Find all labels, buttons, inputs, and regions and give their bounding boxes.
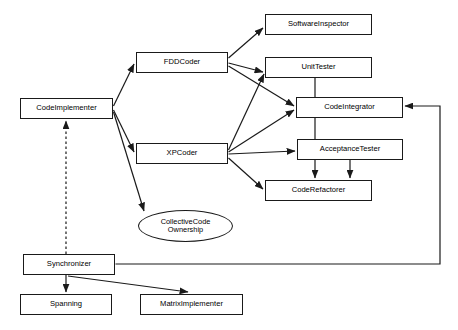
node-xp-coder[interactable]: XPCoder <box>136 143 228 164</box>
node-acceptance-tester-label: AcceptanceTester <box>320 145 380 154</box>
edge-xpcoder-coderefactorer <box>229 158 264 189</box>
node-code-implementer-label: CodeImplementer <box>36 104 96 113</box>
node-matrix-implementer-label: MatrixImplementer <box>160 300 223 309</box>
diagram-edges-layer <box>0 0 458 330</box>
node-matrix-implementer[interactable]: MatrixImplementer <box>140 294 243 315</box>
node-code-integrator[interactable]: CodeIntegrator <box>296 97 403 118</box>
node-spanning-label: Spanning <box>50 300 82 309</box>
node-spanning[interactable]: Spanning <box>20 294 112 315</box>
node-acceptance-tester[interactable]: AcceptanceTester <box>297 139 403 160</box>
diagram-canvas: CodeImplementer FDDCoder XPCoder Softwar… <box>0 0 458 330</box>
node-collective-code-ownership[interactable]: CollectiveCode Ownership <box>138 210 233 242</box>
node-software-inspector[interactable]: SoftwareInspector <box>265 14 372 35</box>
node-synchronizer-label: Synchronizer <box>47 260 91 269</box>
edge-synchronizer-matriximplementer <box>68 276 188 292</box>
node-code-refactorer-label: CodeRefactorer <box>292 186 346 195</box>
edge-xpcoder-unittester <box>229 74 265 150</box>
edge-xpcoder-acceptancetester <box>229 151 296 154</box>
node-unit-tester[interactable]: UnitTester <box>265 57 372 78</box>
node-xp-coder-label: XPCoder <box>167 149 198 158</box>
node-synchronizer[interactable]: Synchronizer <box>23 254 115 275</box>
edge-fddcoder-unittester <box>229 63 264 72</box>
node-unit-tester-label: UnitTester <box>301 63 335 72</box>
edge-xpcoder-codeintegrator <box>229 110 295 152</box>
node-code-implementer[interactable]: CodeImplementer <box>20 98 113 119</box>
node-code-refactorer[interactable]: CodeRefactorer <box>265 180 372 201</box>
edge-codeimplementer-fddcoder <box>114 64 135 106</box>
node-fdd-coder-label: FDDCoder <box>164 58 200 67</box>
node-fdd-coder[interactable]: FDDCoder <box>136 52 228 73</box>
node-collective-code-ownership-label: CollectiveCode Ownership <box>161 218 211 235</box>
node-code-integrator-label: CodeIntegrator <box>324 103 375 112</box>
edge-fddcoder-softwareinspector <box>229 28 264 58</box>
node-software-inspector-label: SoftwareInspector <box>288 20 349 29</box>
